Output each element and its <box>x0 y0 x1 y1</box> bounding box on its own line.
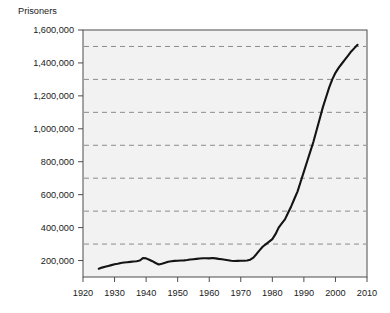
x-tick-label: 1980 <box>262 288 282 298</box>
x-tick-label: 1930 <box>104 288 124 298</box>
x-tick-label: 2010 <box>357 288 377 298</box>
y-tick-label: 1,000,000 <box>33 124 74 134</box>
x-tick-label: 1950 <box>167 288 187 298</box>
y-tick-label: 600,000 <box>41 190 74 200</box>
chart-figure: 200,000400,000600,000800,0001,000,0001,2… <box>0 0 390 313</box>
y-tick-label: 800,000 <box>41 157 74 167</box>
x-tick-label: 1960 <box>199 288 219 298</box>
x-tick-label: 2000 <box>325 288 345 298</box>
plot-area-background <box>83 30 367 277</box>
prisoners-line-chart: 200,000400,000600,000800,0001,000,0001,2… <box>0 0 390 313</box>
y-tick-label: 200,000 <box>41 256 74 266</box>
y-tick-label: 1,600,000 <box>33 25 74 35</box>
x-tick-label: 1920 <box>73 288 93 298</box>
x-tick-label: 1990 <box>294 288 314 298</box>
y-tick-label: 1,400,000 <box>33 58 74 68</box>
y-tick-label: 400,000 <box>41 223 74 233</box>
y-tick-label: 1,200,000 <box>33 91 74 101</box>
x-tick-label: 1940 <box>136 288 156 298</box>
y-axis-caption: Prisoners <box>18 6 57 16</box>
x-tick-label: 1970 <box>231 288 251 298</box>
